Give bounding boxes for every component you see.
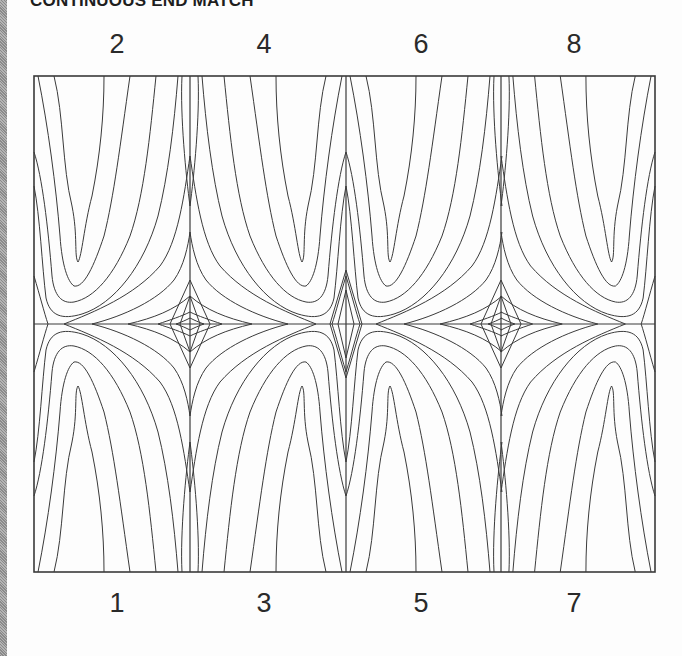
panel-8-grain bbox=[501, 76, 655, 324]
panel-2-grain bbox=[34, 76, 190, 324]
veneer-match-diagram bbox=[0, 0, 682, 656]
panel-6-grain bbox=[346, 76, 502, 324]
panel-5-grain bbox=[346, 324, 502, 572]
panel-1-grain bbox=[34, 324, 190, 572]
panel-4-grain bbox=[190, 76, 346, 324]
panel-7-grain bbox=[501, 324, 655, 572]
panel-frame bbox=[34, 76, 655, 572]
panel-3-grain bbox=[190, 324, 346, 572]
